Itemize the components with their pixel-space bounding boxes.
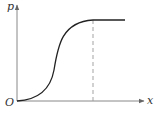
x-axis-label: x	[147, 94, 154, 107]
origin-label: O	[5, 96, 14, 109]
sigmoid-curve	[17, 20, 125, 101]
sigmoid-diagram: p x O	[0, 0, 156, 120]
y-axis-label: p	[7, 0, 14, 13]
